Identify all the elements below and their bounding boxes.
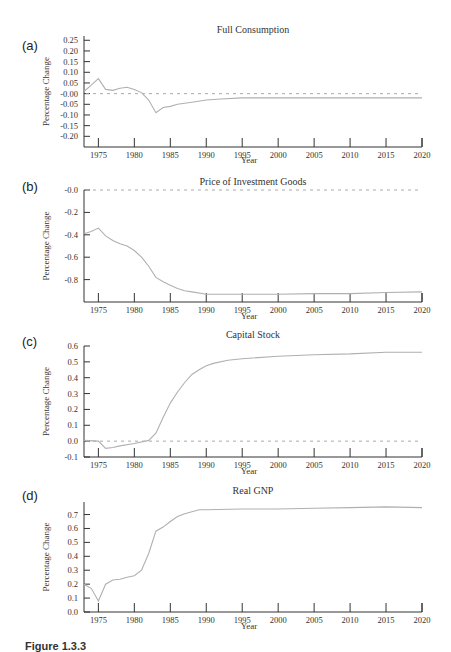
chart-title: Price of Investment Goods	[200, 176, 307, 187]
y-axis-title: Percentage Change	[41, 522, 51, 591]
x-tick-label: 2005	[306, 615, 323, 625]
x-tick-label: 1975	[90, 460, 107, 470]
panel-label: (d)	[22, 488, 38, 503]
x-tick-label: 1975	[90, 305, 107, 315]
x-tick-label: 2005	[306, 305, 323, 315]
y-tick-label: 0.4	[67, 373, 78, 383]
y-tick-label: 0.15	[63, 57, 78, 67]
y-tick-label: -0.1	[65, 452, 78, 462]
chart-panel-c: (c)Capital Stock197519801985199019952000…	[22, 329, 431, 476]
y-tick-label: 0.2	[67, 579, 78, 589]
x-tick-label: 1980	[126, 460, 143, 470]
y-tick-label: -0.05	[60, 99, 78, 109]
x-tick-label: 2010	[342, 460, 359, 470]
y-tick-label: 0.5	[67, 357, 78, 367]
y-tick-label: 0.1	[67, 420, 78, 430]
x-tick-label: 1990	[198, 615, 215, 625]
y-tick-label: -0.6	[65, 252, 78, 262]
axes	[84, 36, 422, 147]
panel-label: (a)	[22, 38, 38, 53]
y-tick-label: 0.2	[67, 404, 78, 414]
figure-caption: Figure 1.3.3	[25, 640, 86, 652]
y-tick-label: 0.0	[67, 436, 78, 446]
y-tick-label: -0.20	[60, 131, 78, 141]
x-tick-label: 2020	[414, 615, 431, 625]
chart-title: Real GNP	[233, 485, 274, 496]
x-tick-label: 1980	[126, 305, 143, 315]
panel-label: (c)	[22, 334, 37, 349]
x-tick-label: 1990	[198, 460, 215, 470]
axes	[84, 190, 422, 302]
x-tick-label: 2015	[378, 305, 395, 315]
x-tick-label: 1985	[162, 460, 179, 470]
x-tick-label: 1980	[126, 150, 143, 160]
x-tick-label: 1990	[198, 305, 215, 315]
y-tick-label: 0.1	[67, 593, 78, 603]
y-tick-label: 0.7	[67, 510, 78, 520]
y-tick-label: 0.20	[63, 46, 78, 56]
y-tick-label: -0.10	[60, 110, 78, 120]
y-tick-label: -0.0	[65, 185, 78, 195]
x-axis-title: Year	[241, 466, 258, 476]
x-tick-label: 1980	[126, 615, 143, 625]
x-tick-label: 2000	[270, 460, 287, 470]
x-tick-label: 2005	[306, 460, 323, 470]
chart-panel-b: (b)Price of Investment Goods197519801985…	[22, 176, 431, 321]
y-tick-label: -0.2	[65, 207, 78, 217]
data-series-line	[84, 352, 422, 448]
axes	[84, 346, 422, 457]
chart-title: Full Consumption	[217, 24, 290, 35]
x-tick-label: 2020	[414, 460, 431, 470]
y-tick-label: -0.8	[65, 275, 78, 285]
y-tick-label: 0.05	[63, 78, 78, 88]
x-tick-label: 2020	[414, 305, 431, 315]
y-tick-label: -0.15	[60, 121, 78, 131]
x-tick-label: 2015	[378, 615, 395, 625]
x-tick-label: 1985	[162, 615, 179, 625]
y-tick-label: -0.00	[60, 89, 78, 99]
y-tick-label: 0.5	[67, 537, 78, 547]
x-tick-label: 1985	[162, 305, 179, 315]
x-axis-title: Year	[241, 155, 258, 165]
x-tick-label: 2010	[342, 615, 359, 625]
y-tick-label: 0.4	[67, 551, 78, 561]
panel-label: (b)	[22, 179, 38, 194]
x-tick-label: 1975	[90, 615, 107, 625]
y-tick-label: 0.25	[63, 35, 78, 45]
data-series-line	[84, 507, 422, 601]
x-tick-label: 2015	[378, 150, 395, 160]
chart-title: Capital Stock	[226, 329, 280, 340]
x-tick-label: 2000	[270, 150, 287, 160]
y-tick-label: 0.10	[63, 67, 78, 77]
x-tick-label: 2020	[414, 150, 431, 160]
y-tick-label: 0.0	[67, 607, 78, 617]
y-tick-label: -0.4	[65, 230, 79, 240]
x-tick-label: 2000	[270, 615, 287, 625]
x-tick-label: 2000	[270, 305, 287, 315]
chart-panel-a: (a)Full Consumption197519801985199019952…	[22, 24, 431, 165]
y-axis-title: Percentage Change	[41, 211, 51, 280]
x-tick-label: 2010	[342, 150, 359, 160]
chart-panel-d: (d)Real GNP19751980198519901995200020052…	[22, 485, 431, 631]
x-tick-label: 2010	[342, 305, 359, 315]
x-tick-label: 1990	[198, 150, 215, 160]
y-axis-title: Percentage Change	[41, 57, 51, 126]
x-tick-label: 1975	[90, 150, 107, 160]
x-axis-title: Year	[241, 311, 258, 321]
y-axis-title: Percentage Change	[41, 367, 51, 436]
y-tick-label: 0.6	[67, 341, 78, 351]
y-tick-label: 0.6	[67, 523, 78, 533]
axes	[84, 502, 422, 612]
data-series-line	[84, 228, 422, 294]
y-tick-label: 0.3	[67, 565, 78, 575]
x-tick-label: 2015	[378, 460, 395, 470]
data-series-line	[84, 79, 422, 113]
y-tick-label: 0.3	[67, 389, 78, 399]
x-tick-label: 2005	[306, 150, 323, 160]
x-tick-label: 1985	[162, 150, 179, 160]
x-axis-title: Year	[241, 621, 258, 631]
